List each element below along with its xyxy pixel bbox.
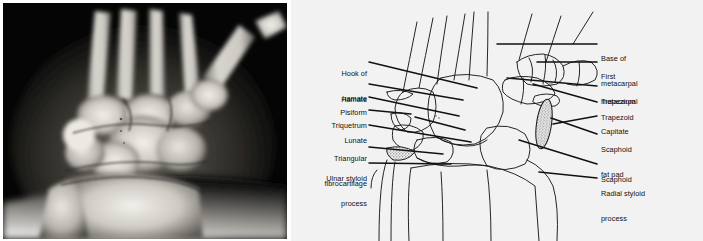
wrist-radiograph-panel — [3, 3, 287, 239]
label-line-1: Scaphoid — [601, 146, 701, 154]
wrist-line-diagram-panel: Hook of hamate Hamate Pisiform Triquetru… — [291, 0, 703, 241]
label-line-2: process — [291, 200, 367, 208]
anatomy-figure: Hook of hamate Hamate Pisiform Triquetru… — [0, 0, 703, 241]
label-line-1: Ulnar styloid — [291, 175, 367, 183]
label-ulnar-styloid-process: Ulnar styloid process — [291, 159, 367, 225]
label-line-1: First — [601, 73, 701, 81]
radiograph-image — [3, 3, 287, 239]
label-line-1: Hook of — [291, 70, 367, 78]
label-line-1: Radial styloid — [601, 190, 701, 198]
label-line-2: process — [601, 215, 701, 223]
label-radial-styloid-process: Radial styloid process — [601, 174, 701, 240]
